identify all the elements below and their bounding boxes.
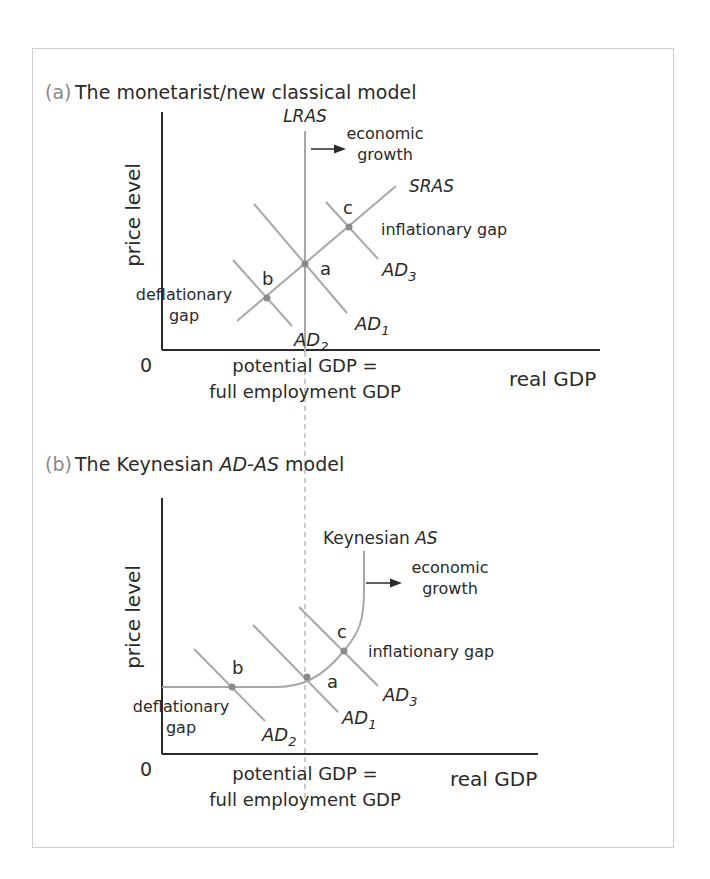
panel-b-potential-label-1: potential GDP = bbox=[232, 763, 377, 784]
keynesian-as-curve bbox=[162, 551, 364, 687]
panel-a-y-axis-label: price level bbox=[121, 163, 145, 267]
panel-b-ad3-label: AD3 bbox=[382, 684, 417, 709]
panel-a-point-b bbox=[264, 295, 271, 302]
panel-b-y-axis-label: price level bbox=[121, 565, 145, 669]
panel-a-title: The monetarist/new classical model bbox=[74, 81, 417, 103]
panel-a-label-a: a bbox=[320, 258, 331, 279]
panel-b-growth-label-1: economic bbox=[411, 558, 488, 577]
sras-label: SRAS bbox=[409, 176, 454, 196]
panel-a-ad1-label: AD1 bbox=[354, 313, 389, 338]
panel-a-origin: 0 bbox=[140, 354, 152, 376]
panel-b-point-b bbox=[229, 684, 236, 691]
lras-label: LRAS bbox=[283, 106, 327, 126]
panel-b-deflationary-gap-2: gap bbox=[166, 718, 196, 737]
panel-a-x-axis-label: real GDP bbox=[509, 367, 596, 391]
panel-b-title: The Keynesian AD-AS model bbox=[74, 453, 344, 475]
panel-b-point-c bbox=[341, 648, 348, 655]
panel-b-origin: 0 bbox=[140, 758, 152, 780]
panel-a-label: (a) bbox=[45, 81, 71, 103]
panel-b-ad1-curve bbox=[253, 625, 338, 712]
panel-b-ad3-curve bbox=[299, 607, 378, 686]
panel-b-label-a: a bbox=[327, 671, 338, 692]
panel-a-label-b: b bbox=[262, 268, 273, 289]
panel-b-arrow-head-icon bbox=[390, 579, 402, 588]
panel-a-deflationary-gap-1: deflationary bbox=[136, 285, 232, 304]
panel-a-growth-label-1: economic bbox=[346, 124, 423, 143]
panel-b-potential-label-2: full employment GDP bbox=[209, 789, 401, 810]
panel-a-point-a bbox=[302, 261, 309, 268]
panel-a-growth-label-2: growth bbox=[357, 145, 413, 164]
panel-b-ad1-label: AD1 bbox=[341, 707, 376, 732]
panel-a-potential-label-1: potential GDP = bbox=[232, 355, 377, 376]
panel-b-inflationary-gap: inflationary gap bbox=[368, 642, 494, 661]
panel-a-arrow-head-icon bbox=[334, 145, 346, 154]
panel-b-deflationary-gap-1: deflationary bbox=[133, 697, 229, 716]
panel-b-point-a bbox=[304, 674, 311, 681]
keynesian-as-label: Keynesian AS bbox=[323, 528, 438, 548]
panel-b-x-axis-label: real GDP bbox=[450, 767, 537, 791]
panel-a-deflationary-gap-2: gap bbox=[169, 306, 199, 325]
adas-diagram: (a) The monetarist/new classical model p… bbox=[0, 0, 710, 879]
panel-b-label-b: b bbox=[232, 657, 243, 678]
panel-a-potential-label-2: full employment GDP bbox=[209, 381, 401, 402]
panel-b-growth-label-2: growth bbox=[422, 579, 478, 598]
panel-a-point-c bbox=[346, 224, 353, 231]
panel-a-inflationary-gap: inflationary gap bbox=[381, 220, 507, 239]
panel-a-label-c: c bbox=[343, 197, 353, 218]
panel-b-label: (b) bbox=[45, 453, 72, 475]
panel-b-ad2-label: AD2 bbox=[261, 724, 296, 749]
panel-a-ad3-label: AD3 bbox=[381, 259, 416, 284]
panel-b-label-c: c bbox=[337, 621, 347, 642]
